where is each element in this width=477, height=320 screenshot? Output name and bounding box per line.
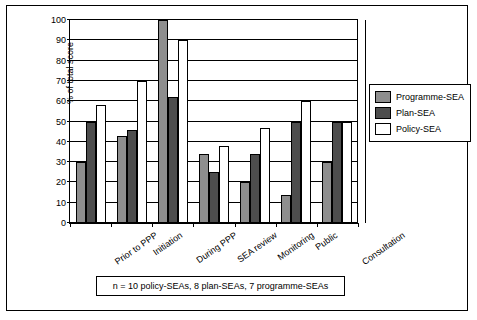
x-tick-mark <box>70 223 71 227</box>
y-tick-label: 10 <box>56 198 66 208</box>
bar <box>281 195 291 223</box>
legend-label: Programme-SEA <box>396 92 464 102</box>
bar <box>76 162 86 223</box>
bar-group: SEA review <box>193 20 234 223</box>
x-tick-mark <box>235 223 236 227</box>
x-tick-mark <box>317 223 318 227</box>
legend-item: Plan-SEA <box>375 106 464 120</box>
bar <box>250 154 260 223</box>
y-tick-label: 60 <box>56 96 66 106</box>
y-tick-label: 30 <box>56 157 66 167</box>
legend: Programme-SEAPlan-SEAPolicy-SEA <box>369 84 471 142</box>
y-tick-label: 100 <box>51 15 66 25</box>
x-tick-label: During PPP <box>195 230 239 265</box>
legend-swatch <box>375 107 391 119</box>
bar <box>96 105 106 223</box>
bar <box>260 128 270 223</box>
bar <box>322 162 332 223</box>
y-tick-label: 70 <box>56 76 66 86</box>
bar-group: Initiation <box>111 20 152 223</box>
x-tick-mark <box>152 223 153 227</box>
bar <box>332 122 342 224</box>
bar <box>291 122 301 224</box>
bar <box>219 146 229 223</box>
legend-item: Policy-SEA <box>375 122 464 136</box>
bar-group: Monitoring <box>235 20 276 223</box>
bar <box>137 81 147 223</box>
bar-group: Consultation <box>317 20 358 223</box>
bar <box>168 97 178 223</box>
x-tick-label: Monitoring <box>276 230 316 262</box>
legend-swatch <box>375 123 391 135</box>
y-tick-label: 40 <box>56 137 66 147</box>
chart-frame: % of total score 0102030405060708090100P… <box>6 5 468 311</box>
x-tick-mark <box>276 223 277 227</box>
chart-footnote: n = 10 policy-SEAs, 8 plan-SEAs, 7 progr… <box>96 276 345 296</box>
y-tick-label: 80 <box>56 56 66 66</box>
y-tick-label: 90 <box>56 35 66 45</box>
y-tick-label: 20 <box>56 177 66 187</box>
legend-label: Plan-SEA <box>396 108 435 118</box>
bar <box>209 172 219 223</box>
bar <box>342 122 352 224</box>
x-tick-mark <box>358 223 359 227</box>
bar <box>158 20 168 223</box>
bar <box>301 101 311 223</box>
bar <box>178 40 188 223</box>
bar <box>86 122 96 224</box>
plot-area: 0102030405060708090100Prior to PPPInitia… <box>69 20 358 224</box>
legend-label: Policy-SEA <box>396 124 441 134</box>
bar-group: Public <box>276 20 317 223</box>
bar <box>199 154 209 223</box>
x-tick-mark <box>193 223 194 227</box>
bar <box>127 130 137 223</box>
bar <box>240 182 250 223</box>
x-tick-label: Consultation <box>360 230 407 267</box>
x-tick-label: SEA review <box>235 230 278 265</box>
legend-swatch <box>375 91 391 103</box>
x-tick-label: Public <box>314 230 340 252</box>
bar-group: During PPP <box>152 20 193 223</box>
y-tick-label: 50 <box>56 117 66 127</box>
y-tick-label: 0 <box>61 218 66 228</box>
legend-item: Programme-SEA <box>375 90 464 104</box>
x-tick-mark <box>111 223 112 227</box>
bar-group: Prior to PPP <box>70 20 111 223</box>
bar <box>117 136 127 223</box>
